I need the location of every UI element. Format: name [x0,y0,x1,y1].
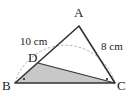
label-b: B [2,78,11,93]
length-ab: 10 cm [20,35,48,47]
label-d: D [28,50,37,65]
length-ac: 8 cm [101,40,123,52]
shaded-triangle-dbc [15,63,115,83]
label-c: C [117,78,126,93]
label-a: A [74,5,84,20]
angle-mark-c [106,78,108,80]
triangle-figure: A B C D 10 cm 8 cm [0,0,137,101]
angle-mark-b [23,78,25,80]
